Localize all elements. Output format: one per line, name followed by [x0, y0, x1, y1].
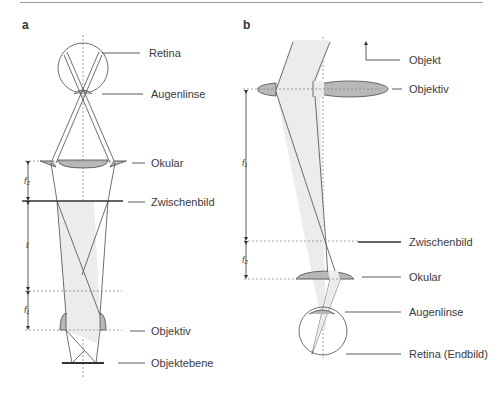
label-zwischenbild-b: Zwischenbild	[409, 236, 473, 248]
label-objektebene-a: Objektebene	[151, 357, 213, 369]
label-objektiv-a: Objektiv	[151, 325, 191, 337]
panel-a	[22, 35, 145, 378]
dim-f1-a: f₁	[24, 305, 29, 315]
dim-f2-b: f₂	[242, 255, 248, 265]
label-retina-b: Retina (Endbild)	[409, 348, 488, 360]
eye-lens-a	[74, 90, 92, 94]
dim-f1-b: f₁	[242, 158, 247, 168]
label-okular-b: Okular	[409, 271, 441, 283]
label-objektiv-b: Objektiv	[409, 83, 449, 95]
ocular-lens-b	[296, 271, 354, 279]
label-zwischenbild-a: Zwischenbild	[151, 196, 215, 208]
label-augenlinse-a: Augenlinse	[151, 88, 205, 100]
eye-lens-b	[309, 310, 335, 314]
label-objekt-b: Objekt	[409, 54, 441, 66]
label-retina-a: Retina	[149, 47, 181, 59]
label-augenlinse-b: Augenlinse	[409, 306, 463, 318]
dim-f2-a: f₂	[24, 176, 30, 186]
dim-t-a: t	[26, 240, 29, 250]
panel-b	[243, 37, 402, 358]
label-okular-a: Okular	[151, 157, 183, 169]
